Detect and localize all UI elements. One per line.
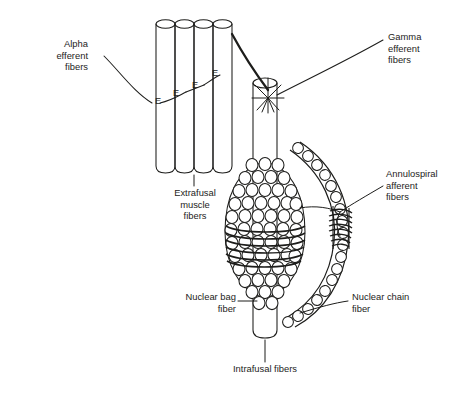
gamma-efferent-nerve [232, 34, 268, 90]
label-intrafusal-fibers: Intrafusal fibers [210, 363, 320, 375]
endplate-marker-1: E [155, 96, 161, 106]
extrafusal-fiber-bundle [156, 20, 232, 173]
gamma-motor-endplate-starburst [252, 78, 284, 113]
label-annulospiral-afferent-fibers: Annulospiral afferent fibers [386, 168, 464, 203]
label-nuclear-chain-fiber: Nuclear chain fiber [352, 291, 444, 314]
endplate-marker-2: E [173, 88, 179, 98]
label-extrafusal-muscle-fibers: Extrafusal muscle fibers [150, 187, 240, 222]
gamma-efferent-leader [277, 40, 383, 95]
label-nuclear-bag-fiber: Nuclear bag fiber [152, 291, 236, 314]
endplate-marker-4: E [212, 68, 218, 78]
label-alpha-efferent-fibers: Alpha efferent fibers [6, 38, 88, 73]
label-gamma-efferent-fibers: Gamma efferent fibers [388, 31, 464, 66]
endplate-marker-3: E [192, 80, 198, 90]
alpha-efferent-nerve [104, 56, 220, 103]
diagram-canvas: Alpha efferent fibers Extrafusal muscle … [0, 0, 465, 403]
